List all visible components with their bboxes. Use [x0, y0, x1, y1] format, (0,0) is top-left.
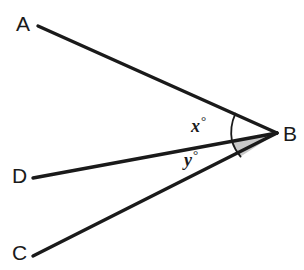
angle-label-y: y° — [184, 148, 198, 169]
vertex-label-d: D — [12, 165, 27, 186]
geometry-diagram: A D C B x° y° — [0, 0, 304, 270]
angle-y-degree-symbol: ° — [193, 147, 198, 162]
vertex-label-b: B — [283, 123, 297, 144]
angle-x-arc — [231, 114, 235, 142]
vertex-label-a: A — [16, 13, 30, 34]
angle-label-x: x° — [191, 114, 206, 135]
vertex-label-c: C — [12, 242, 27, 263]
segment-CB — [33, 133, 277, 256]
angle-x-variable: x — [191, 116, 200, 136]
segment-AB — [38, 26, 277, 133]
angle-y-variable: y — [184, 150, 192, 170]
diagram-canvas — [0, 0, 304, 270]
angle-x-degree-symbol: ° — [201, 113, 206, 128]
